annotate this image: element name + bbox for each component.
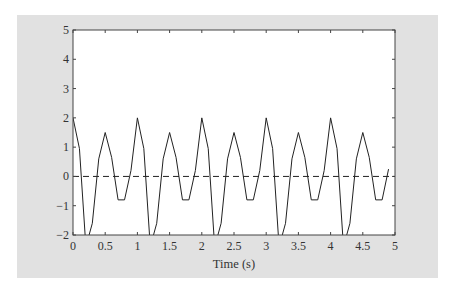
- x-tick-label: 2: [199, 239, 205, 253]
- y-tick-label: −1: [56, 199, 69, 213]
- x-axis-title: Time (s): [213, 257, 255, 271]
- x-tick-label: 4.5: [355, 239, 370, 253]
- y-tick-label: 3: [63, 82, 69, 96]
- y-tick-label: 5: [63, 23, 69, 37]
- y-tick-label: 4: [63, 52, 69, 66]
- x-tick-label: 0: [70, 239, 76, 253]
- y-tick-label: −2: [56, 228, 69, 242]
- x-tick-label: 0.5: [98, 239, 113, 253]
- x-tick-label: 2.5: [227, 239, 242, 253]
- y-tick-label: 2: [63, 111, 69, 125]
- chart: 00.511.522.533.544.55−2−1012345 Time (s): [0, 0, 453, 290]
- x-tick-label: 1: [134, 239, 140, 253]
- x-tick-label: 3.5: [291, 239, 306, 253]
- x-tick-label: 3: [263, 239, 269, 253]
- x-tick-label: 1.5: [162, 239, 177, 253]
- y-tick-label: 0: [63, 169, 69, 183]
- y-tick-label: 1: [63, 140, 69, 154]
- x-tick-label: 5: [392, 239, 398, 253]
- x-tick-label: 4: [328, 239, 334, 253]
